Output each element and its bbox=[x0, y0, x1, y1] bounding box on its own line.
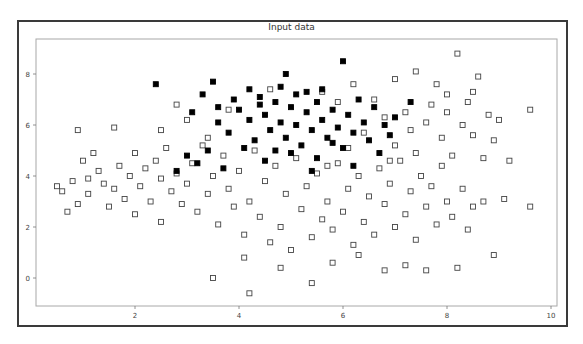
filled-square-marker bbox=[278, 120, 283, 125]
filled-square-marker bbox=[315, 100, 320, 105]
filled-square-marker bbox=[356, 97, 361, 102]
filled-square-marker bbox=[205, 148, 210, 153]
x-tick-label: 8 bbox=[445, 312, 449, 320]
filled-square-marker bbox=[294, 92, 299, 97]
filled-square-marker bbox=[377, 151, 382, 156]
filled-square-marker bbox=[330, 107, 335, 112]
filled-square-marker bbox=[190, 110, 195, 115]
filled-square-marker bbox=[393, 115, 398, 120]
filled-square-marker bbox=[351, 163, 356, 168]
scatter-plot: 246810 02468 bbox=[0, 0, 583, 344]
filled-square-marker bbox=[283, 135, 288, 140]
x-tick-label: 6 bbox=[341, 312, 346, 320]
filled-square-marker bbox=[351, 130, 356, 135]
filled-square-marker bbox=[242, 145, 247, 150]
filled-square-marker bbox=[309, 168, 314, 173]
filled-square-marker bbox=[283, 72, 288, 77]
filled-square-marker bbox=[330, 140, 335, 145]
filled-square-marker bbox=[289, 105, 294, 110]
filled-square-marker bbox=[263, 158, 268, 163]
filled-square-marker bbox=[320, 117, 325, 122]
filled-square-marker bbox=[341, 59, 346, 64]
filled-square-marker bbox=[257, 94, 262, 99]
filled-square-marker bbox=[382, 123, 387, 128]
x-axis-ticks: 246810 bbox=[133, 306, 556, 320]
filled-square-marker bbox=[185, 153, 190, 158]
filled-square-marker bbox=[247, 87, 252, 92]
filled-square-marker bbox=[231, 97, 236, 102]
filled-square-marker bbox=[257, 102, 262, 107]
filled-square-marker bbox=[221, 166, 226, 171]
y-tick-label: 0 bbox=[26, 275, 30, 283]
filled-square-marker bbox=[367, 138, 372, 143]
filled-square-marker bbox=[315, 156, 320, 161]
x-tick-label: 2 bbox=[133, 312, 137, 320]
filled-square-marker bbox=[289, 151, 294, 156]
filled-square-marker bbox=[408, 100, 413, 105]
filled-square-marker bbox=[247, 117, 252, 122]
y-axis-ticks: 02468 bbox=[26, 71, 36, 283]
filled-square-marker bbox=[174, 168, 179, 173]
filled-square-marker bbox=[211, 79, 216, 84]
filled-square-marker bbox=[361, 120, 366, 125]
x-tick-label: 10 bbox=[547, 312, 556, 320]
filled-square-marker bbox=[273, 100, 278, 105]
y-tick-label: 8 bbox=[26, 71, 30, 79]
filled-square-marker bbox=[299, 143, 304, 148]
filled-square-marker bbox=[252, 138, 257, 143]
filled-square-marker bbox=[304, 110, 309, 115]
x-tick-label: 4 bbox=[237, 312, 242, 320]
filled-square-marker bbox=[346, 112, 351, 117]
filled-square-marker bbox=[153, 82, 158, 87]
filled-square-marker bbox=[294, 123, 299, 128]
filled-square-marker bbox=[372, 105, 377, 110]
filled-square-marker bbox=[320, 87, 325, 92]
filled-square-marker bbox=[341, 145, 346, 150]
filled-square-marker bbox=[216, 105, 221, 110]
filled-square-marker bbox=[216, 120, 221, 125]
y-tick-label: 2 bbox=[26, 224, 30, 232]
filled-square-marker bbox=[200, 92, 205, 97]
filled-square-marker bbox=[309, 128, 314, 133]
y-tick-label: 4 bbox=[26, 173, 31, 181]
filled-square-marker bbox=[263, 112, 268, 117]
filled-square-marker bbox=[335, 125, 340, 130]
y-tick-label: 6 bbox=[26, 122, 31, 130]
filled-square-marker bbox=[304, 89, 309, 94]
filled-square-marker bbox=[273, 148, 278, 153]
filled-square-marker bbox=[226, 130, 231, 135]
filled-square-marker bbox=[268, 128, 273, 133]
filled-square-marker bbox=[278, 84, 283, 89]
filled-square-marker bbox=[325, 135, 330, 140]
filled-square-marker bbox=[237, 107, 242, 112]
filled-square-marker bbox=[387, 133, 392, 138]
filled-square-marker bbox=[195, 161, 200, 166]
